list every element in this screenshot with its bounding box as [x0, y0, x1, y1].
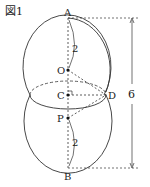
label-ab-length: 6 — [128, 88, 135, 101]
label-b: B — [64, 171, 71, 182]
label-d: D — [108, 90, 116, 101]
label-c: C — [57, 90, 65, 101]
point-p — [66, 116, 69, 119]
segment-pd — [68, 95, 106, 118]
label-a: A — [63, 7, 72, 18]
point-o — [66, 68, 69, 71]
label-p: P — [57, 113, 64, 124]
label-ao: 2 — [72, 43, 78, 54]
point-c — [66, 93, 69, 96]
upper-sphere-outline — [23, 15, 111, 95]
diagram: 図1 2 2 A O C D P B 6 — [0, 0, 150, 187]
upper-sphere-right — [68, 18, 110, 92]
label-pb: 2 — [72, 137, 78, 148]
label-o: O — [57, 65, 65, 76]
figure-label: 図1 — [5, 5, 23, 18]
